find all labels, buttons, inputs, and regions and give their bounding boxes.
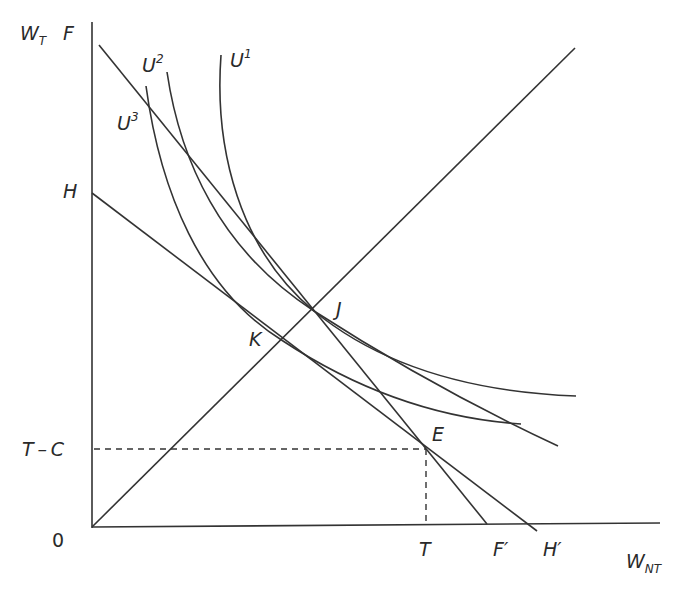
label-H-prime: H′: [543, 538, 562, 560]
label-point-J: J: [332, 298, 342, 320]
label-F: F: [63, 22, 75, 44]
x-axis: [92, 523, 660, 527]
indifference-curve-U1: [220, 55, 576, 396]
line-F-F-prime: [99, 45, 487, 524]
label-U3: U3: [117, 110, 139, 134]
origin-label: 0: [52, 529, 64, 551]
y-axis-label: WT: [20, 22, 48, 48]
label-T-minus-C: T – C: [22, 438, 65, 460]
label-point-K: K: [249, 328, 263, 350]
label-point-E: E: [432, 423, 444, 445]
x-axis-label: WNT: [626, 550, 663, 576]
label-U1: U1: [230, 47, 252, 71]
indifference-curve-U3: [146, 86, 521, 424]
label-T: T: [419, 538, 432, 560]
label-U2: U2: [142, 52, 164, 76]
label-H: H: [63, 180, 77, 202]
diagram-canvas: WT WNT 0 F H T – C T F′ H′ U1 U2 U3 J K …: [0, 0, 687, 590]
label-F-prime: F′: [493, 538, 509, 560]
ray-45-degree: [92, 48, 575, 527]
line-H-H-prime: [92, 193, 537, 531]
